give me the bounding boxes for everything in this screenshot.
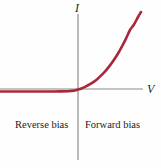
plot-canvas bbox=[0, 0, 161, 168]
iv-curve-path bbox=[0, 12, 141, 92]
vertical-axis-label: I bbox=[75, 2, 79, 14]
horizontal-axis-label: V bbox=[147, 83, 154, 95]
diode-iv-characteristic-figure: I V Reverse bias Forward bias bbox=[0, 0, 161, 168]
forward-bias-label: Forward bias bbox=[85, 120, 140, 131]
reverse-bias-label: Reverse bias bbox=[15, 120, 68, 131]
